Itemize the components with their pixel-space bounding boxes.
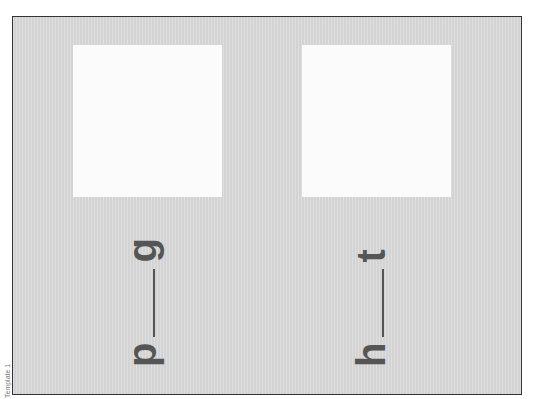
worksheet-card: p g h t (12, 16, 522, 395)
missing-letter-word-1: p g (127, 238, 157, 367)
template-label: Template 1 (4, 364, 11, 398)
blank-line (153, 269, 155, 337)
missing-letter-word-2: h t (356, 249, 386, 367)
worksheet-page: Template 1 p g h t (0, 0, 533, 399)
blank-line (382, 269, 384, 337)
image-box-1 (73, 45, 222, 197)
last-letter: t (356, 249, 386, 262)
first-letter: p (127, 343, 157, 367)
last-letter: g (127, 238, 157, 262)
first-letter: h (356, 343, 386, 367)
image-box-2 (302, 45, 451, 197)
